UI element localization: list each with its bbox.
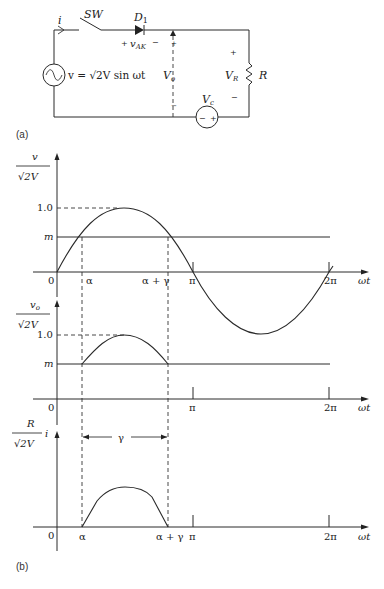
x-two-pi-label: 2π [324,275,337,286]
vr-plus: + [230,48,237,57]
ylabel-numerator: v [32,151,38,162]
output-voltage-curve [82,335,168,364]
vak-minus: − [152,38,159,47]
gamma-label: γ [118,432,124,443]
diode-label: D1 [133,11,148,25]
y-axis-arrow-icon [55,431,60,438]
tick-one-label: 1.0 [37,329,53,340]
panel-output-voltage: vo √2V 1.0 m 0 π 2π ωt [16,299,371,425]
x-alpha-gamma-label: α + γ [156,531,183,542]
x-axis-arrow-icon [361,525,369,530]
gamma-arrowhead-right-icon [161,435,167,440]
gamma-arrowhead-left-icon [83,435,89,440]
panel-b-label: (b) [16,561,28,572]
ylabel-numerator: vo [30,299,40,312]
x-alpha-gamma-label: α + γ [142,275,169,286]
tick-m-label: m [44,358,53,369]
x-two-pi-label: 2π [324,531,337,542]
vo-minus: − [171,102,177,110]
ylabel-denominator: √2V [18,171,40,182]
panel-a-label: (a) [16,129,28,140]
sine-wave-icon [46,70,62,81]
vr-minus: − [231,93,238,102]
vc-plus: + [210,114,217,123]
ylabel-suffix: i [45,428,48,439]
ylabel-denominator: √2V [14,438,36,449]
x-pi-label: π [189,531,196,542]
x-alpha-label: α [86,275,93,286]
x-axis-label: ωt [358,531,371,542]
tick-zero-label: 0 [48,530,54,541]
y-axis-arrow-icon [55,300,60,307]
x-axis-arrow-icon [361,270,369,275]
resistor-label: R [258,69,267,82]
x-axis-label: ωt [358,275,371,286]
switch-label: SW [84,8,105,21]
ylabel-numerator: R [26,418,35,429]
vr-label: VR [225,69,239,83]
vak-label: vAK [130,38,147,51]
x-two-pi-label: 2π [324,402,337,413]
sine-curve [57,208,333,334]
x-axis-label: ωt [358,402,371,413]
vo-plus: + [171,40,177,48]
source-equation: v = √2V sin ωt [67,69,146,81]
y-axis-arrow-icon [55,153,60,160]
vo-arrow-icon [170,30,176,36]
panel-current: R i √2V γ 0 α α + γ π 2π ωt [12,418,371,551]
x-pi-label: π [189,275,196,286]
current-curve [82,487,168,527]
tick-one-label: 1.0 [37,202,53,213]
vak-plus: + [121,39,128,48]
vc-minus: − [199,114,206,123]
circuit-diagram: i SW D1 + vAK − R + VR − − + Vc v [16,8,267,140]
x-alpha-label: α [79,531,86,542]
panel-source-voltage: v √2V 1.0 m 0 α α + γ π 2π ωt [16,151,371,334]
tick-zero-label: 0 [48,402,54,413]
tick-zero-label: 0 [48,275,54,286]
current-label: i [58,14,62,27]
diode-icon [135,25,144,35]
vc-label: Vc [202,93,214,107]
tick-m-label: m [44,231,53,242]
resistor-icon [246,63,252,85]
figure: i SW D1 + vAK − R + VR − − + Vc v [0,0,384,589]
x-axis-arrow-icon [361,397,369,402]
x-pi-label: π [189,402,196,413]
